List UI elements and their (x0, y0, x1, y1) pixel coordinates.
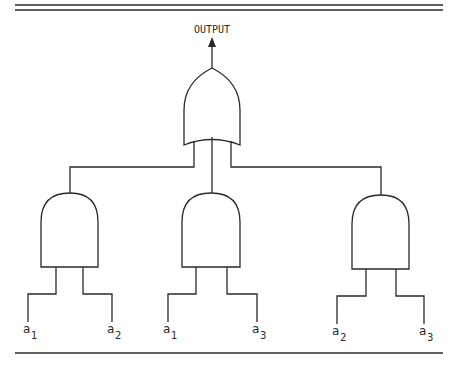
svg-text:3: 3 (427, 332, 433, 343)
svg-text:a: a (107, 322, 114, 336)
output-arrow-icon (208, 37, 216, 47)
input-label-g2-1: a 1 (163, 322, 177, 341)
input-label-g3-2: a 3 (419, 324, 433, 343)
or-gate (184, 68, 240, 145)
and-gate-2-input-wire-1 (168, 267, 196, 322)
svg-text:2: 2 (340, 332, 346, 343)
svg-text:a: a (332, 324, 339, 338)
svg-text:a: a (163, 322, 170, 336)
and-gate-3-input-wire-1 (337, 269, 366, 324)
or-input-wire-right (231, 141, 381, 195)
output-label: OUTPUT (194, 24, 230, 35)
svg-text:a: a (252, 322, 259, 336)
input-label-g1-2: a 2 (107, 322, 121, 341)
svg-text:2: 2 (115, 330, 121, 341)
and-gate-1-input-wire-1 (28, 267, 56, 322)
svg-text:a: a (419, 324, 426, 338)
and-gate-2 (182, 193, 240, 267)
svg-text:1: 1 (171, 330, 177, 341)
svg-text:a: a (23, 322, 30, 336)
input-label-g3-1: a 2 (332, 324, 346, 343)
svg-text:1: 1 (31, 330, 37, 341)
and-gate-3-input-wire-2 (396, 269, 424, 324)
and-gate-3 (352, 195, 409, 269)
svg-text:3: 3 (260, 330, 266, 341)
and-gate-2-input-wire-2 (227, 267, 257, 322)
input-label-g1-1: a 1 (23, 322, 37, 341)
or-input-wire-left (70, 141, 194, 193)
and-gate-1 (41, 193, 98, 267)
input-label-g2-2: a 3 (252, 322, 266, 341)
and-gate-1-input-wire-2 (83, 267, 112, 322)
logic-circuit-diagram: OUTPUT a 1 a 2 a 1 a 3 a 2 a 3 (0, 0, 453, 366)
